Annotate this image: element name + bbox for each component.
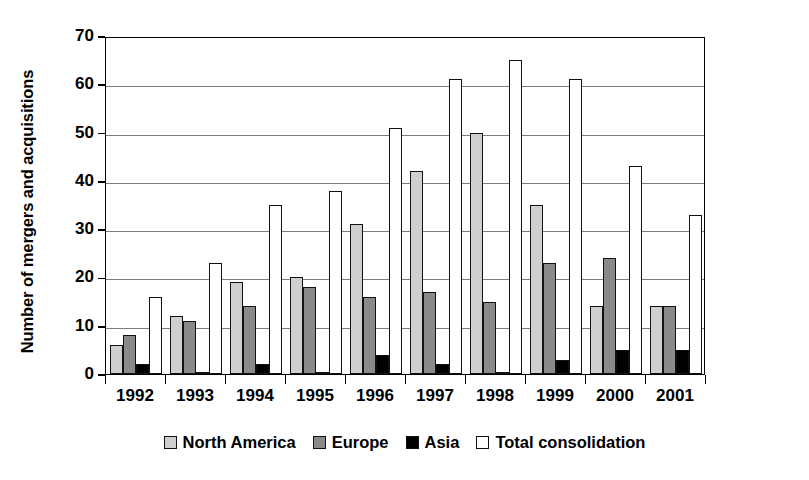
group-divider <box>226 38 227 374</box>
x-axis-tick-mark <box>345 375 346 384</box>
x-axis-tick-label: 2001 <box>640 386 710 406</box>
y-axis-tick-label: 40 <box>42 171 94 191</box>
group-divider <box>166 38 167 374</box>
group-divider <box>646 38 647 374</box>
bar-north-america-1997 <box>410 171 423 374</box>
bar-group <box>286 38 346 374</box>
legend-swatch-icon <box>164 436 177 449</box>
bar-asia-1994 <box>256 364 269 374</box>
bar-north-america-1996 <box>350 224 363 374</box>
legend-label: Total consolidation <box>495 433 645 452</box>
group-divider <box>466 38 467 374</box>
bar-north-america-1992 <box>110 345 123 374</box>
bar-europe-1994 <box>243 306 256 374</box>
bar-europe-1999 <box>543 263 556 374</box>
y-axis-tick-label: 0 <box>42 364 94 384</box>
legend-item-north-america[interactable]: North America <box>164 433 296 452</box>
bar-asia-1997 <box>436 364 449 374</box>
bar-group <box>466 38 526 374</box>
y-axis-tick-mark <box>98 181 105 183</box>
group-divider <box>406 38 407 374</box>
chart-legend: North AmericaEuropeAsiaTotal consolidati… <box>0 433 809 452</box>
y-axis-tick-label: 30 <box>42 219 94 239</box>
legend-item-total-consolidation[interactable]: Total consolidation <box>476 433 645 452</box>
y-axis-tick-mark <box>98 326 105 328</box>
bar-europe-1996 <box>363 297 376 374</box>
bar-north-america-1993 <box>170 316 183 374</box>
bar-europe-1998 <box>483 302 496 374</box>
legend-label: North America <box>183 433 296 452</box>
legend-swatch-icon <box>406 436 419 449</box>
y-axis-title: Number of mergers and acquisitions <box>18 42 37 382</box>
bar-north-america-2000 <box>590 306 603 374</box>
group-divider <box>346 38 347 374</box>
y-axis-tick-mark <box>98 278 105 280</box>
bar-group <box>346 38 406 374</box>
bar-group <box>106 38 166 374</box>
x-axis-tick-mark <box>165 375 166 384</box>
y-axis-tick-label: 60 <box>42 74 94 94</box>
y-axis-tick-mark <box>98 84 105 86</box>
bar-europe-1997 <box>423 292 436 374</box>
bar-asia-1999 <box>556 360 569 374</box>
y-axis-tick-label: 20 <box>42 267 94 287</box>
bar-total-consolidation-1993 <box>209 263 222 374</box>
x-axis-tick-mark <box>285 375 286 384</box>
bar-asia-2001 <box>676 350 689 374</box>
legend-label: Asia <box>425 433 460 452</box>
bar-asia-1996 <box>376 355 389 374</box>
bar-total-consolidation-2001 <box>689 215 702 374</box>
x-axis-tick-mark <box>645 375 646 384</box>
bar-north-america-1999 <box>530 205 543 374</box>
bar-europe-1992 <box>123 335 136 374</box>
plot-area <box>105 37 705 375</box>
bar-asia-1998 <box>496 372 509 374</box>
bar-europe-1993 <box>183 321 196 374</box>
bar-asia-1992 <box>136 364 149 374</box>
bar-north-america-1995 <box>290 277 303 374</box>
y-axis-tick-mark <box>98 374 105 376</box>
x-axis-tick-mark <box>105 375 106 384</box>
x-axis-tick-mark <box>405 375 406 384</box>
bar-europe-2001 <box>663 306 676 374</box>
bar-group <box>526 38 586 374</box>
legend-item-europe[interactable]: Europe <box>313 433 389 452</box>
bar-europe-2000 <box>603 258 616 374</box>
bar-total-consolidation-1995 <box>329 191 342 374</box>
y-axis-tick-label: 70 <box>42 26 94 46</box>
bar-europe-1995 <box>303 287 316 374</box>
group-divider <box>526 38 527 374</box>
bar-asia-2000 <box>616 350 629 374</box>
y-axis-tick-label: 10 <box>42 316 94 336</box>
bar-total-consolidation-1994 <box>269 205 282 374</box>
bar-asia-1993 <box>196 372 209 374</box>
legend-item-asia[interactable]: Asia <box>406 433 460 452</box>
y-axis-tick-mark <box>98 36 105 38</box>
x-axis-tick-mark <box>225 375 226 384</box>
group-divider <box>286 38 287 374</box>
bar-total-consolidation-1992 <box>149 297 162 374</box>
bar-total-consolidation-1996 <box>389 128 402 374</box>
y-axis-tick-mark <box>98 133 105 135</box>
bar-north-america-1998 <box>470 133 483 374</box>
bar-total-consolidation-1999 <box>569 79 582 374</box>
y-axis-tick-label: 50 <box>42 123 94 143</box>
x-axis-tick-mark <box>705 375 706 384</box>
bar-group <box>646 38 706 374</box>
bar-group <box>166 38 226 374</box>
bar-total-consolidation-2000 <box>629 166 642 374</box>
bar-total-consolidation-1997 <box>449 79 462 374</box>
bar-total-consolidation-1998 <box>509 60 522 374</box>
legend-label: Europe <box>332 433 389 452</box>
legend-swatch-icon <box>313 436 326 449</box>
bar-group <box>586 38 646 374</box>
bar-north-america-2001 <box>650 306 663 374</box>
bar-asia-1995 <box>316 372 329 374</box>
bar-group <box>406 38 466 374</box>
x-axis-tick-mark <box>585 375 586 384</box>
group-divider <box>586 38 587 374</box>
x-axis-tick-mark <box>465 375 466 384</box>
bar-north-america-1994 <box>230 282 243 374</box>
legend-swatch-icon <box>476 436 489 449</box>
x-axis-tick-mark <box>525 375 526 384</box>
